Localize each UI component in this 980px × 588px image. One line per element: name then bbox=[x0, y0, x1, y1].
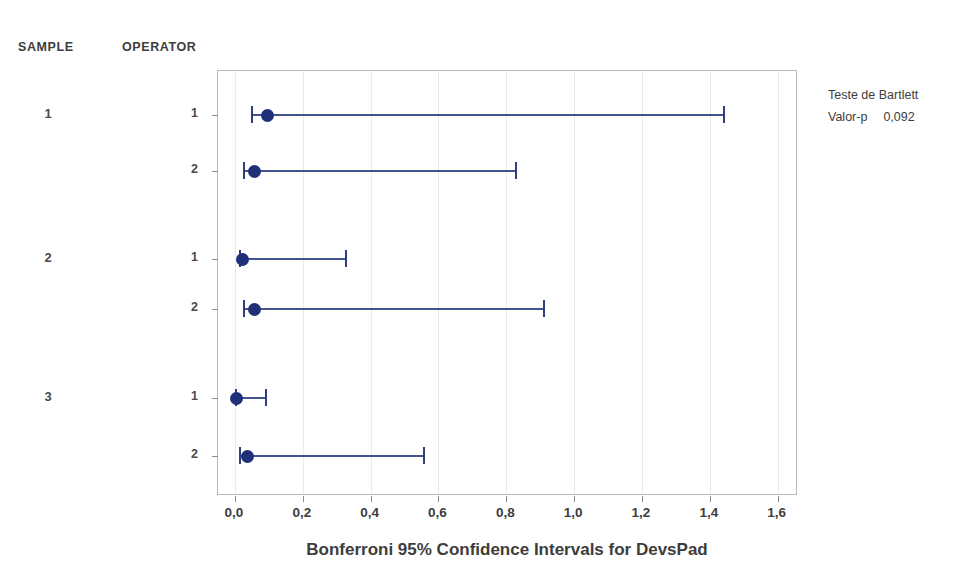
interval-lower-cap bbox=[243, 162, 245, 179]
y-tick bbox=[212, 309, 218, 310]
x-tick bbox=[778, 496, 779, 502]
confidence-interval-plot bbox=[217, 70, 797, 495]
x-tick bbox=[710, 496, 711, 502]
x-tick bbox=[303, 496, 304, 502]
operator-label: 1 bbox=[178, 106, 198, 120]
interval-line bbox=[243, 170, 515, 172]
gridline bbox=[303, 71, 304, 494]
operator-label: 1 bbox=[178, 250, 198, 264]
y-tick bbox=[212, 398, 218, 399]
legend-pvalue-value: 0,092 bbox=[883, 110, 914, 124]
interval-line bbox=[239, 455, 423, 457]
interval-center-marker bbox=[241, 450, 254, 463]
bartlett-test-legend: Teste de Bartlett Valor-p 0,092 bbox=[828, 88, 918, 124]
sample-label: 1 bbox=[36, 106, 60, 121]
interval-center-marker bbox=[261, 109, 274, 122]
interval-upper-cap bbox=[265, 389, 267, 406]
gridline bbox=[710, 71, 711, 494]
gridline bbox=[235, 71, 236, 494]
y-tick bbox=[212, 456, 218, 457]
gridline bbox=[574, 71, 575, 494]
interval-center-marker bbox=[248, 165, 261, 178]
x-tick-label: 0,2 bbox=[292, 505, 311, 520]
interval-upper-cap bbox=[515, 162, 517, 179]
gridline bbox=[642, 71, 643, 494]
x-tick bbox=[438, 496, 439, 502]
operator-label: 2 bbox=[178, 300, 198, 314]
interval-upper-cap bbox=[723, 106, 725, 123]
operator-column-header: OPERATOR bbox=[122, 40, 196, 54]
gridline bbox=[371, 71, 372, 494]
x-tick-label: 0,8 bbox=[496, 505, 515, 520]
legend-pvalue-row: Valor-p 0,092 bbox=[828, 110, 918, 124]
x-tick bbox=[574, 496, 575, 502]
x-tick-label: 1,0 bbox=[564, 505, 583, 520]
interval-lower-cap bbox=[243, 300, 245, 317]
gridline bbox=[506, 71, 507, 494]
x-tick bbox=[642, 496, 643, 502]
interval-upper-cap bbox=[423, 447, 425, 464]
interval-line bbox=[243, 308, 542, 310]
interval-upper-cap bbox=[345, 250, 347, 267]
interval-center-marker bbox=[230, 392, 243, 405]
y-tick bbox=[212, 259, 218, 260]
x-tick-label: 1,6 bbox=[767, 505, 786, 520]
legend-pvalue-label: Valor-p bbox=[828, 110, 867, 124]
x-tick-label: 0,0 bbox=[225, 505, 244, 520]
operator-label: 2 bbox=[178, 162, 198, 176]
x-tick bbox=[506, 496, 507, 502]
interval-upper-cap bbox=[543, 300, 545, 317]
interval-center-marker bbox=[248, 303, 261, 316]
y-tick bbox=[212, 115, 218, 116]
operator-label: 2 bbox=[178, 447, 198, 461]
interval-lower-cap bbox=[251, 106, 253, 123]
operator-label: 1 bbox=[178, 389, 198, 403]
x-tick-label: 0,4 bbox=[360, 505, 379, 520]
sample-column-header: SAMPLE bbox=[18, 40, 74, 54]
interval-line bbox=[239, 258, 346, 260]
x-tick bbox=[371, 496, 372, 502]
y-tick bbox=[212, 171, 218, 172]
x-tick-label: 0,6 bbox=[428, 505, 447, 520]
gridline bbox=[778, 71, 779, 494]
x-tick-label: 1,2 bbox=[632, 505, 651, 520]
axis-title: Bonferroni 95% Confidence Intervals for … bbox=[217, 540, 797, 560]
x-tick-label: 1,4 bbox=[699, 505, 718, 520]
sample-label: 2 bbox=[36, 250, 60, 265]
legend-title: Teste de Bartlett bbox=[828, 88, 918, 102]
x-tick bbox=[235, 496, 236, 502]
sample-label: 3 bbox=[36, 389, 60, 404]
interval-center-marker bbox=[236, 253, 249, 266]
interval-line bbox=[251, 114, 724, 116]
gridline bbox=[438, 71, 439, 494]
